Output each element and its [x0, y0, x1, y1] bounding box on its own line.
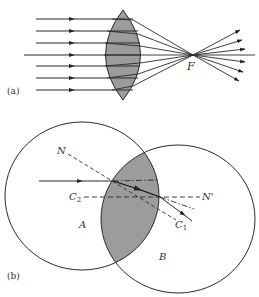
normal-n-prime-label: N' — [201, 191, 214, 202]
exit-ray — [160, 197, 183, 214]
optics-figure: F (a) N N' C2 C1 A — [0, 0, 259, 297]
figure-canvas: F (a) N N' C2 C1 A — [0, 0, 259, 297]
panel-a: F (a) — [7, 10, 255, 100]
center-c1-label: C1 — [175, 219, 187, 232]
panel-b-label: (b) — [7, 271, 20, 281]
focal-point-label: F — [186, 60, 195, 73]
normal-n-label: N — [56, 145, 67, 156]
region-b-label: B — [158, 251, 166, 262]
converging-rays — [133, 20, 255, 86]
panel-a-label: (a) — [7, 86, 19, 96]
exit-extension — [160, 197, 194, 209]
exit-ray-cont — [183, 214, 192, 221]
center-c2-label: C2 — [69, 191, 81, 204]
panel-b: N N' C2 C1 A B (b) — [5, 122, 255, 293]
region-a-label: A — [78, 219, 86, 230]
